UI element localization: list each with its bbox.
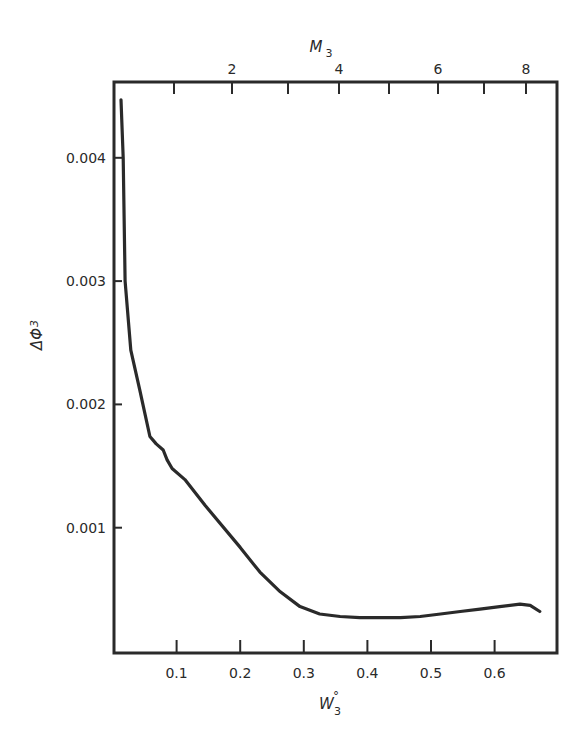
svg-text:ΔΦ3: ΔΦ3 [28, 320, 46, 351]
y-tick-label: 0.002 [66, 396, 106, 412]
top-tick-label: 6 [434, 61, 443, 77]
y-tick-label: 0.004 [66, 150, 106, 166]
x-tick-label: 0.5 [420, 665, 442, 681]
y-tick-label: 0.001 [66, 520, 106, 536]
y-axis-title: ΔΦ3 [28, 320, 46, 351]
chart-canvas: 0.10.20.30.40.50.60.0010.0020.0030.00424… [0, 0, 587, 734]
x-tick-label: 0.1 [165, 665, 187, 681]
top-tick-label: 2 [228, 61, 237, 77]
top-tick-label: 8 [522, 61, 531, 77]
x-tick-label: 0.4 [356, 665, 378, 681]
x-axis-title: W3° [319, 689, 341, 718]
plot-frame [114, 82, 557, 653]
axis-ticks [114, 82, 526, 653]
top-axis-title: M3 [310, 38, 333, 60]
top-tick-label: 4 [335, 61, 344, 77]
y-tick-label: 0.003 [66, 273, 106, 289]
x-tick-label: 0.2 [229, 665, 251, 681]
data-curve [121, 100, 540, 618]
x-tick-label: 0.6 [483, 665, 505, 681]
x-tick-label: 0.3 [293, 665, 315, 681]
